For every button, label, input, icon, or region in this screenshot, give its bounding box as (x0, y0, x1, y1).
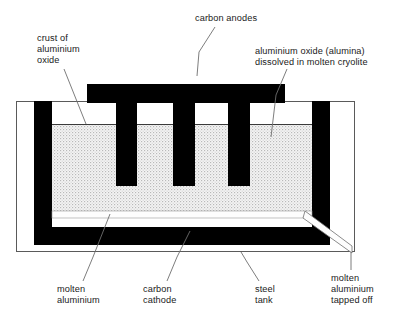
diagram-canvas: carbon anodes crust of aluminium oxide a… (0, 0, 393, 324)
carbon-anode-leg-1 (116, 103, 137, 186)
label-crust-of-aluminium-oxide: crust of aluminium oxide (37, 33, 80, 67)
leader-steel-tank (241, 252, 259, 281)
carbon-anode-leg-2 (173, 103, 195, 186)
label-carbon-cathode: carbon cathode (143, 284, 176, 306)
carbon-anode-leg-3 (228, 103, 250, 186)
molten-aluminium-layer (52, 211, 312, 218)
carbon-anode-bar (87, 84, 285, 103)
label-molten-aluminium: molten aluminium (57, 284, 100, 306)
label-alumina-in-cryolite: aluminium oxide (alumina) dissolved in m… (255, 46, 368, 68)
label-carbon-anodes: carbon anodes (195, 13, 257, 24)
label-molten-aluminium-tapped-off: molten aluminium tapped off (331, 273, 374, 307)
leader-carbon-anodes (197, 27, 215, 76)
label-steel-tank: steel tank (255, 284, 275, 306)
